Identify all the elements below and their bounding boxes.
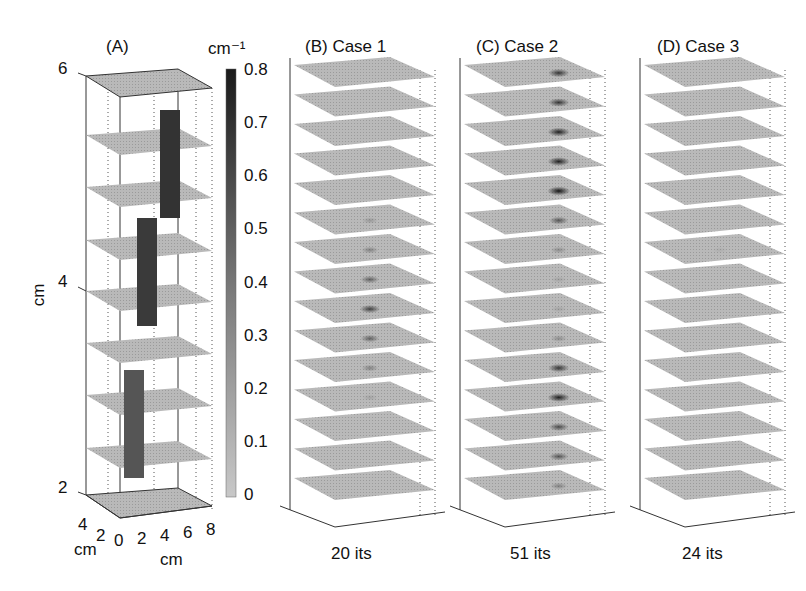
- slice: [464, 470, 605, 500]
- slice: [294, 146, 435, 176]
- colorbar-tick: 0.6: [244, 166, 268, 186]
- iterations-label-c: 51 its: [510, 544, 551, 564]
- slice: [464, 87, 605, 117]
- y-tick-4: 4: [78, 515, 87, 535]
- slice: [464, 441, 605, 471]
- colorbar-tick: 0: [244, 485, 253, 505]
- slice: [464, 352, 605, 382]
- slice: [644, 87, 785, 117]
- panel-c-slices: [450, 57, 615, 527]
- colorbar-unit: cm⁻¹: [208, 38, 245, 59]
- slice: [644, 205, 785, 235]
- colorbar: [226, 69, 236, 497]
- inclusion-bar: [137, 218, 157, 326]
- slice: [294, 116, 435, 146]
- y-tick-2: 2: [96, 526, 105, 546]
- slice: [644, 441, 785, 471]
- colorbar-tick: 0.3: [244, 326, 268, 346]
- slice: [294, 441, 435, 471]
- z-axis-label: cm: [29, 284, 49, 307]
- slice: [644, 382, 785, 412]
- x-tick-8: 8: [206, 520, 215, 540]
- slice: [464, 116, 605, 146]
- slice: [294, 57, 435, 87]
- colorbar-tick: 0.1: [244, 432, 268, 452]
- panel-a: [78, 69, 212, 518]
- slice: [644, 57, 785, 87]
- slice: [644, 293, 785, 323]
- z-tick-6: 6: [58, 59, 67, 79]
- slice: [294, 470, 435, 500]
- y-axis-label: cm: [74, 540, 97, 560]
- slice: [464, 323, 605, 353]
- slice: [644, 411, 785, 441]
- z-tick-2: 2: [58, 478, 67, 498]
- panel-b-title: (B) Case 1: [305, 37, 386, 57]
- panel-d-title: (D) Case 3: [657, 37, 739, 57]
- slice: [644, 352, 785, 382]
- slice: [644, 264, 785, 294]
- slice: [464, 175, 605, 205]
- iterations-label-b: 20 its: [331, 544, 372, 564]
- panel-c-title: (C) Case 2: [476, 37, 558, 57]
- slice: [294, 411, 435, 441]
- colorbar-tick: 0.5: [244, 219, 268, 239]
- slice: [294, 87, 435, 117]
- iterations-label-d: 24 its: [682, 544, 723, 564]
- slice: [464, 234, 605, 264]
- slice: [644, 470, 785, 500]
- slice: [464, 146, 605, 176]
- colorbar-tick: 0.8: [244, 60, 268, 80]
- slice: [644, 116, 785, 146]
- panel-d-slices: [630, 57, 795, 527]
- x-tick-4: 4: [160, 526, 169, 546]
- panel-b-slices: [280, 57, 445, 527]
- panel-a-title: (A): [106, 37, 129, 57]
- x-tick-0: 0: [114, 531, 123, 551]
- x-axis-label: cm: [160, 550, 183, 570]
- slice: [644, 146, 785, 176]
- slice: [464, 57, 605, 87]
- slice: [464, 205, 605, 235]
- slice: [464, 382, 605, 412]
- slice: [464, 411, 605, 441]
- slice: [464, 264, 605, 294]
- inclusion-bar: [124, 370, 144, 478]
- slice: [464, 293, 605, 323]
- inclusion-bar: [160, 110, 180, 218]
- x-tick-2: 2: [137, 529, 146, 549]
- slice: [644, 323, 785, 353]
- x-tick-6: 6: [183, 523, 192, 543]
- slice: [294, 175, 435, 205]
- colorbar-tick: 0.2: [244, 379, 268, 399]
- colorbar-tick: 0.4: [244, 273, 268, 293]
- colorbar-tick: 0.7: [244, 113, 268, 133]
- slice: [644, 175, 785, 205]
- z-tick-4: 4: [58, 272, 67, 292]
- figure-canvas: [0, 0, 806, 591]
